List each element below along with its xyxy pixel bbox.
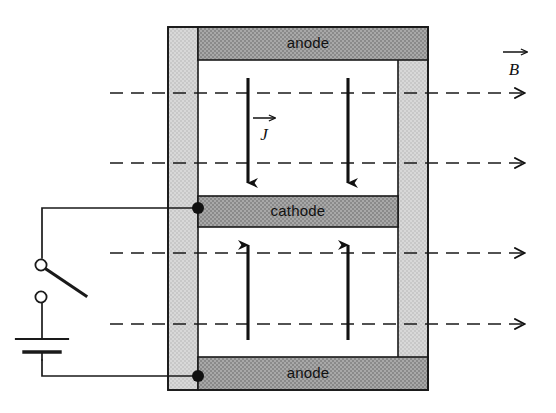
cathode-label: cathode [271,202,326,219]
anode-top-label: anode [287,34,330,51]
anode-bottom-label: anode [287,364,330,381]
magnetic-field-vector-label: B [503,52,527,79]
switch-blade[interactable] [46,269,86,296]
insulator-wall-right [398,27,428,390]
diagram-root: anode cathode anode J B [0,0,556,413]
terminal-anode-connection [192,370,204,382]
terminal-cathode-connection [192,202,204,214]
switch-terminal-upper[interactable] [35,259,46,270]
b-symbol: B [509,60,520,79]
thruster-diagram: anode cathode anode J B [0,0,556,413]
switch-terminal-lower[interactable] [35,291,46,302]
